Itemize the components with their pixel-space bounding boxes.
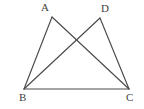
- vertex-label-a: A: [41, 2, 49, 13]
- segment-dc: [100, 18, 129, 89]
- segment-db: [24, 18, 100, 89]
- vertex-label-b: B: [19, 92, 26, 103]
- segment-ac: [52, 17, 129, 89]
- segment-ab: [24, 17, 52, 89]
- geometry-figure: A D B C: [0, 0, 144, 109]
- vertex-label-c: C: [126, 92, 133, 103]
- vertex-label-d: D: [101, 3, 109, 14]
